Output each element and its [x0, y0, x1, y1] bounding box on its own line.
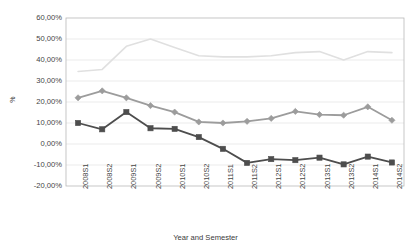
x-tick-label: 2010S1 [178, 164, 187, 189]
x-tick-label: 2008S2 [105, 164, 114, 189]
data-point-marker-square [244, 160, 249, 165]
x-tick-label: 2014S1 [371, 164, 380, 189]
data-point-marker-square [148, 126, 153, 131]
series-line [78, 39, 392, 72]
data-point-marker-square [196, 134, 201, 139]
data-point-marker-diamond [123, 95, 129, 101]
y-tick-label: -20,00% [10, 182, 62, 190]
data-point-marker-diamond [99, 88, 105, 94]
y-tick-label: 60,00% [10, 14, 62, 22]
data-point-marker-diamond [147, 102, 153, 108]
data-series [75, 88, 395, 126]
data-point-marker-square [220, 146, 225, 151]
data-point-marker-square [317, 155, 322, 160]
plot-area [66, 18, 404, 186]
y-tick-label: 10,00% [10, 119, 62, 127]
data-point-marker-square [172, 126, 177, 131]
data-point-marker-square [341, 162, 346, 167]
y-tick-label: 40,00% [10, 56, 62, 64]
data-point-marker-diamond [292, 108, 298, 114]
data-series [75, 109, 394, 166]
y-tick-label: 30,00% [10, 77, 62, 85]
x-tick-label: 2012S1 [274, 164, 283, 189]
data-point-marker-diamond [196, 119, 202, 125]
data-point-marker-diamond [172, 109, 178, 115]
data-point-marker-square [365, 154, 370, 159]
data-point-marker-diamond [75, 95, 81, 101]
data-series [78, 39, 392, 72]
series-line [78, 112, 392, 164]
gridlines [66, 39, 404, 165]
y-tick-label: 20,00% [10, 98, 62, 106]
series-layer [75, 39, 395, 167]
y-tick-label: -10,00% [10, 161, 62, 169]
data-point-marker-diamond [316, 112, 322, 118]
data-point-marker-square [269, 157, 274, 162]
data-point-marker-square [389, 160, 394, 165]
x-tick-label: 2009S2 [154, 164, 163, 189]
chart-container: % 60,00% 50,00% 40,00% 30,00% 20,00% 10,… [0, 0, 411, 250]
data-point-marker-diamond [220, 120, 226, 126]
x-tick-label: 2012S2 [298, 164, 307, 189]
data-point-marker-square [75, 120, 80, 125]
data-point-marker-square [124, 109, 129, 114]
data-point-marker-diamond [341, 112, 347, 118]
x-tick-label: 2014S2 [395, 164, 404, 189]
x-tick-label: 2011S1 [226, 164, 235, 189]
y-tick-label: 50,00% [10, 35, 62, 43]
x-tick-label: 2013S1 [323, 164, 332, 189]
data-point-marker-diamond [244, 118, 250, 124]
x-tick-label: 2009S1 [129, 164, 138, 189]
x-axis-title: Year and Semester [0, 233, 411, 242]
data-point-marker-diamond [268, 115, 274, 121]
x-tick-label: 2011S2 [250, 164, 259, 189]
y-tick-label: 0,00% [10, 140, 62, 148]
data-point-marker-square [293, 158, 298, 163]
data-point-marker-square [100, 127, 105, 132]
x-tick-label: 2010S2 [202, 164, 211, 189]
x-tick-label: 2013S2 [347, 164, 356, 189]
x-tick-label: 2008S1 [81, 164, 90, 189]
y-axis-tick-labels: 60,00% 50,00% 40,00% 30,00% 20,00% 10,00… [0, 0, 62, 250]
plot-svg [66, 18, 404, 186]
